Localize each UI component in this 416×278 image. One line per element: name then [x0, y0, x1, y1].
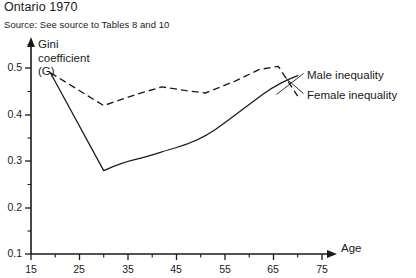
x-tick-label-45: 45: [161, 263, 191, 275]
series-line-male-inequality: [50, 73, 297, 171]
y-tick-label-0.4: 0.4: [0, 108, 22, 120]
y-axis-label-line-2: coefficient: [38, 52, 90, 66]
y-axis-arrowhead: [27, 37, 35, 47]
x-tick-label-25: 25: [64, 263, 94, 275]
legend-label-male-inequality: Male inequality: [307, 69, 384, 81]
leader-line-male: [277, 74, 304, 95]
x-axis-label: Age: [341, 242, 361, 256]
y-tick-label-0.2: 0.2: [0, 201, 22, 213]
chart-figure: Ontario 1970 Source: See source to Table…: [0, 0, 416, 278]
x-axis-arrowhead: [327, 250, 337, 258]
x-tick-label-35: 35: [113, 263, 143, 275]
y-axis-label: Gini coefficient (G): [38, 38, 90, 79]
y-tick-label-0.1: 0.1: [0, 247, 22, 259]
y-tick-label-0.3: 0.3: [0, 154, 22, 166]
y-axis-label-line-1: Gini: [38, 38, 90, 52]
x-tick-label-75: 75: [307, 263, 337, 275]
y-tick-label-0.5: 0.5: [0, 61, 22, 73]
x-tick-label-65: 65: [258, 263, 288, 275]
y-axis-label-line-3: (G): [38, 65, 90, 79]
legend-label-female-inequality: Female inequality: [307, 89, 397, 101]
x-tick-label-55: 55: [210, 263, 240, 275]
x-tick-label-15: 15: [16, 263, 46, 275]
